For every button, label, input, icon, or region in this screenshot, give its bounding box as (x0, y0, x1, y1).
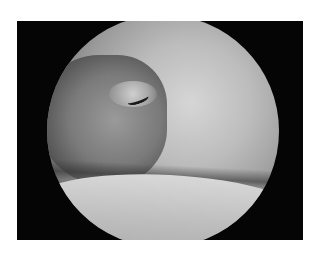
figure-caption (55, 243, 275, 254)
scope-field (47, 21, 279, 240)
arthroscopy-image-frame (17, 21, 303, 240)
